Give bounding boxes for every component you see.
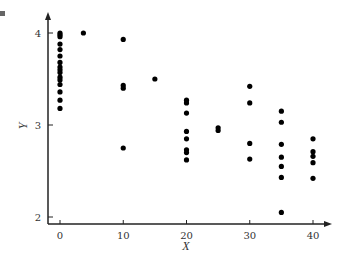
data-point — [152, 76, 157, 81]
x-tick-label: 0 — [57, 230, 63, 241]
data-point — [184, 110, 189, 115]
data-point — [57, 70, 62, 75]
x-axis-arrow-icon — [324, 221, 332, 227]
scatter-plot: 010203040234 X Y — [0, 0, 344, 263]
data-point — [57, 34, 62, 39]
data-point — [279, 155, 284, 160]
data-point — [279, 164, 284, 169]
data-point — [184, 136, 189, 141]
data-point — [57, 89, 62, 94]
data-point — [247, 141, 252, 146]
data-points — [57, 30, 315, 215]
y-tick-label: 4 — [35, 28, 41, 39]
data-point — [57, 60, 62, 65]
data-point — [57, 82, 62, 87]
data-point — [121, 37, 126, 42]
data-point — [57, 77, 62, 82]
data-point — [121, 86, 126, 91]
axes: 010203040234 — [35, 12, 332, 241]
data-point — [279, 175, 284, 180]
data-point — [279, 210, 284, 215]
data-point — [81, 30, 86, 35]
data-point — [310, 149, 315, 154]
data-point — [121, 145, 126, 150]
data-point — [57, 47, 62, 52]
data-point — [247, 100, 252, 105]
data-point — [184, 129, 189, 134]
data-point — [184, 157, 189, 162]
x-tick-label: 10 — [117, 230, 130, 241]
data-point — [310, 160, 315, 165]
x-axis-label: X — [181, 239, 190, 253]
data-point — [247, 156, 252, 161]
y-axis-label: Y — [16, 121, 30, 129]
y-tick-label: 3 — [35, 120, 41, 131]
data-point — [279, 120, 284, 125]
data-point — [184, 150, 189, 155]
y-axis-arrow-icon — [45, 12, 51, 20]
data-point — [57, 98, 62, 103]
data-point — [57, 41, 62, 46]
data-point — [310, 136, 315, 141]
data-point — [184, 100, 189, 105]
x-tick-label: 40 — [307, 230, 320, 241]
data-point — [279, 109, 284, 114]
y-tick-label: 2 — [35, 212, 41, 223]
data-point — [310, 154, 315, 159]
data-point — [247, 84, 252, 89]
data-point — [57, 53, 62, 58]
data-point — [279, 142, 284, 147]
data-point — [216, 128, 221, 133]
data-point — [57, 106, 62, 111]
data-point — [310, 176, 315, 181]
x-tick-label: 30 — [243, 230, 256, 241]
